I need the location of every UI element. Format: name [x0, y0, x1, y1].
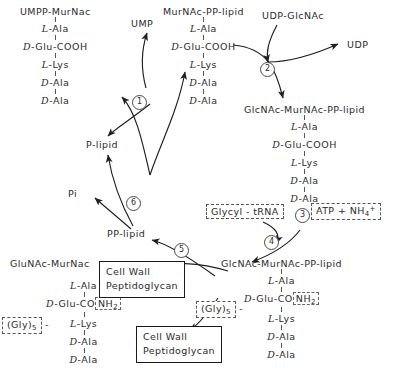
gly5-bottom-right: (Gly)5 -	[196, 301, 243, 318]
arrow-ump	[142, 33, 147, 88]
cell-wall-line2: Peptidoglycan	[106, 279, 178, 293]
node-umpp-murnac: UMPP-MurNac L-Ala D-Glu-COOH L-Lys D-Ala…	[20, 6, 91, 109]
residue: D-Ala	[267, 345, 295, 363]
gly5-bottom-left: (Gly)5 -	[2, 317, 49, 334]
node-murnac-pp-lipid: MurNAc-PP-lipid L-Ala D-Glu-COOH L-Lys D…	[163, 6, 244, 109]
label-pi: Pi	[68, 189, 77, 199]
amide-group: NH2	[95, 297, 121, 310]
cell-wall-line2: Peptidoglycan	[143, 344, 215, 358]
label-udp: UDP	[347, 40, 368, 50]
cell-wall-peptidoglycan-box-upper: Cell Wall Peptidoglycan	[99, 261, 185, 298]
label-udp-glcnac: UDP-GlcNAc	[262, 11, 324, 21]
arrow-udp-glcnac	[267, 25, 277, 62]
residue: D-Ala	[189, 91, 217, 109]
arrow-p-lipid	[108, 104, 150, 136]
residue: D-Ala	[69, 350, 97, 368]
label-pp-lipid: PP-lipid	[107, 229, 145, 239]
residue: D-Glu-CONH2	[244, 289, 319, 309]
step-circle-1: 1	[132, 95, 147, 110]
amide-group: NH2	[293, 292, 319, 305]
step-circle-3: 3	[295, 208, 310, 223]
cell-wall-line1: Cell Wall	[143, 330, 215, 344]
residue: D-Ala	[41, 91, 69, 109]
step-circle-5: 5	[174, 243, 189, 258]
cell-wall-line1: Cell Wall	[106, 265, 178, 279]
reagent-glycyl-trna: Glycyl - tRNA	[206, 204, 284, 219]
arrow-step6-recycle	[108, 155, 133, 226]
arrow-udp-out	[268, 44, 338, 62]
step-circle-6: 6	[126, 196, 141, 211]
label-p-lipid: P-lipid	[86, 140, 118, 150]
label-ump: UMP	[131, 19, 153, 29]
step-circle-2: 2	[260, 62, 275, 77]
node-glunac-murnac: GluNAc-MurNac	[10, 258, 90, 271]
diagram-canvas: UMPP-MurNac L-Ala D-Glu-COOH L-Lys D-Ala…	[0, 0, 400, 368]
step-circle-4: 4	[264, 235, 279, 250]
cell-wall-peptidoglycan-box-lower: Cell Wall Peptidoglycan	[136, 326, 222, 363]
node-glcnac-murnac-pp-lipid-top: GlcNAc-MurNAc-PP-lipid L-Ala D-Glu-COOH …	[244, 104, 365, 207]
node-glunac-murnac-head: GluNAc-MurNac	[10, 258, 90, 271]
reagent-atp-nh4: ATP + NH4+	[311, 203, 381, 220]
